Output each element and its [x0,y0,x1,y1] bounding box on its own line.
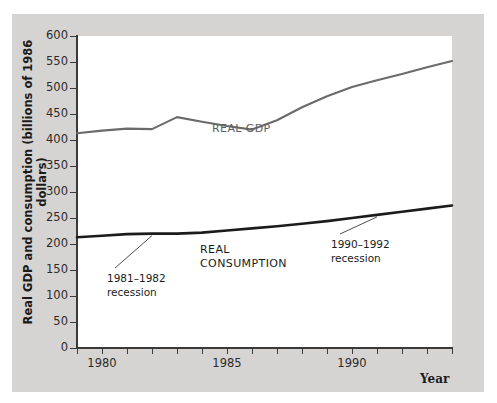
x-tick-1990 [352,348,353,354]
annotation-2-line2: recession [331,252,390,266]
y-tick-250 [70,218,77,219]
y-tick-200 [70,244,77,245]
x-tick-1994 [452,348,453,354]
y-axis-title: Real GDP and consumption (billions of 19… [21,17,49,347]
x-axis-line [76,347,453,349]
x-tick-1980 [102,348,103,354]
y-tick-300 [70,192,77,193]
y-tick-600 [70,36,77,37]
x-tick-1989 [327,348,328,354]
annotation-1-line1: 1981–1982 [107,272,166,286]
y-tick-100 [70,296,77,297]
series-label-real-consumption-line2: CONSUMPTION [200,257,287,271]
annotation-1-line2: recession [107,286,166,300]
series-label-real-gdp-text: REAL GDP [212,122,271,135]
x-tick-1983 [177,348,178,354]
x-tick-1987 [277,348,278,354]
y-tick-350 [70,166,77,167]
x-tick-label-1985: 1985 [197,356,257,370]
figure-container: 050100150200250300350400450500550600 198… [0,0,497,403]
y-tick-150 [70,270,77,271]
y-tick-50 [70,322,77,323]
x-tick-1979 [77,348,78,354]
y-tick-400 [70,140,77,141]
x-tick-1993 [427,348,428,354]
y-tick-550 [70,62,77,63]
y-tick-0 [70,348,77,349]
series-label-real-consumption: REAL CONSUMPTION [200,243,287,271]
y-tick-450 [70,114,77,115]
series-label-real-gdp: REAL GDP [212,122,271,136]
annotation-1990-1992-recession: 1990–1992 recession [331,238,390,265]
y-tick-500 [70,88,77,89]
x-tick-label-1980: 1980 [72,356,132,370]
x-tick-1991 [377,348,378,354]
x-tick-1992 [402,348,403,354]
annotation-2-line1: 1990–1992 [331,238,390,252]
x-tick-1984 [202,348,203,354]
x-tick-1985 [227,348,228,354]
x-tick-1981 [127,348,128,354]
x-tick-1986 [252,348,253,354]
x-tick-label-1990: 1990 [322,356,382,370]
annotation-1981-1982-recession: 1981–1982 recession [107,272,166,299]
x-tick-1988 [302,348,303,354]
series-label-real-consumption-line1: REAL [200,243,287,257]
plot-area [77,36,452,348]
x-tick-1982 [152,348,153,354]
x-axis-title: Year [420,372,449,386]
